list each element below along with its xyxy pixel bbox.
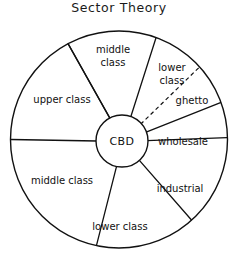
sector-label-wholesale: wholesale	[158, 136, 208, 147]
sector-label-ghetto: ghetto	[176, 95, 209, 106]
sector-label-upper-class: upper class	[33, 94, 90, 105]
sector-label-lower-class-bottom: lower class	[92, 221, 147, 232]
sector-theory-figure: Sector Theory CBD middleclasslowerclassg…	[0, 0, 238, 271]
sector-label-industrial: industrial	[157, 183, 204, 194]
cbd-label: CBD	[109, 135, 134, 148]
sector-diagram: CBD middleclasslowerclassghettowholesale…	[0, 0, 238, 271]
sector-label-middle-class-left: middle class	[31, 175, 93, 186]
